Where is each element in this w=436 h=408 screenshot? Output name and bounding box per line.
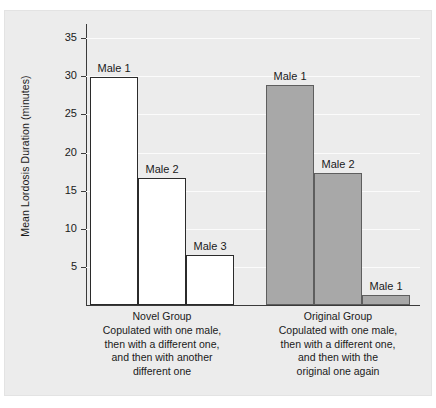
bar-label-original-male-1-repeat: Male 1 (356, 280, 416, 292)
plot-area: Male 1 Male 2 Male 3 Male 1 Male 2 Male … (86, 24, 420, 305)
group-caption-novel: Novel Group Copulated with one male, the… (86, 310, 238, 378)
group-caption-original: Original Group Copulated with one male, … (262, 310, 414, 378)
group-desc-novel-line-1: Copulated with one male, (86, 324, 238, 338)
bar-label-original-male-1: Male 1 (260, 70, 320, 82)
group-title-novel: Novel Group (86, 310, 238, 324)
y-tick-label-15: 15 (49, 185, 77, 196)
bar-original-male-1-repeat[interactable] (362, 295, 410, 305)
figure-container: Mean Lordosis Duration (minutes) 35 30 2… (0, 0, 436, 408)
bar-novel-male-2[interactable] (138, 178, 186, 305)
group-desc-original-line-3: and then with the (262, 351, 414, 365)
group-title-original: Original Group (262, 310, 414, 324)
y-tick-label-20-wrap: 20 (45, 147, 77, 158)
y-tick-label-20: 20 (49, 147, 77, 158)
group-desc-novel-line-4: different one (86, 365, 238, 379)
y-tick-label-25: 25 (49, 108, 77, 119)
group-desc-original-line-2: then with a different one, (262, 338, 414, 352)
bar-label-novel-male-1: Male 1 (84, 62, 144, 74)
y-tick-label-10: 10 (49, 223, 77, 234)
y-tick-label-35: 35 (49, 32, 77, 43)
y-tick-label-15-wrap: 15 (45, 185, 77, 196)
y-tick-label-5: 5 (49, 261, 77, 272)
group-desc-original-line-4: original one again (262, 365, 414, 379)
group-desc-novel-line-2: then with a different one, (86, 338, 238, 352)
x-axis-line (86, 305, 420, 306)
bar-novel-male-3[interactable] (186, 255, 234, 305)
y-tick-label-5-wrap: 5 (45, 261, 77, 272)
bar-original-male-1[interactable] (266, 85, 314, 305)
group-desc-novel-line-3: and then with another (86, 351, 238, 365)
y-tick-label-25-wrap: 25 (45, 108, 77, 119)
bar-label-original-male-2: Male 2 (308, 158, 368, 170)
y-tick-label-30: 30 (49, 70, 77, 81)
bar-novel-male-1[interactable] (90, 77, 138, 305)
y-tick-label-10-wrap: 10 (45, 223, 77, 234)
gridline-35 (86, 38, 420, 39)
y-tick-label-35-wrap: 35 (45, 32, 77, 43)
y-tick-label-30-wrap: 30 (45, 70, 77, 81)
bar-label-novel-male-2: Male 2 (132, 163, 192, 175)
y-axis-title: Mean Lordosis Duration (minutes) (19, 36, 31, 276)
group-desc-original-line-1: Copulated with one male, (262, 324, 414, 338)
bar-label-novel-male-3: Male 3 (180, 240, 240, 252)
bar-original-male-2[interactable] (314, 173, 362, 305)
